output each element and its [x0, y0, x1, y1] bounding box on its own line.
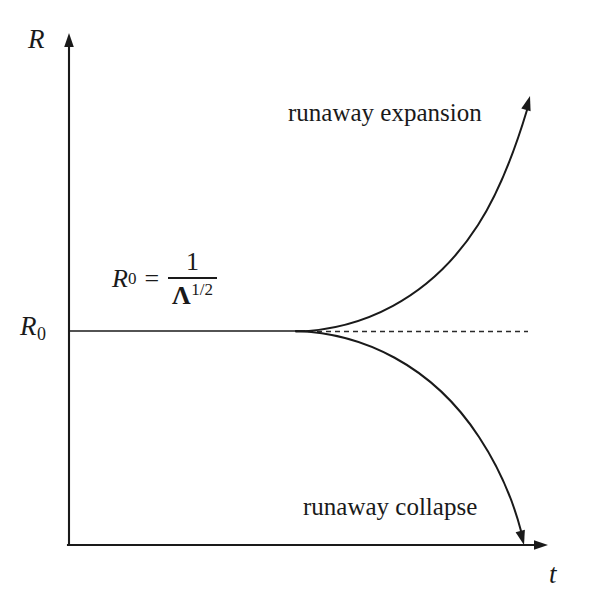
bifurcation-figure: R t R0 runaway expansion runaway collaps… — [0, 0, 597, 606]
equation-equals-sign: = — [144, 264, 159, 294]
equation-r0-definition: R0 = 1 Λ1/2 — [112, 249, 217, 309]
tick-label-base: R — [20, 311, 37, 341]
y-axis-tick-label-R0: R0 — [20, 313, 46, 343]
x-axis-label: t — [549, 561, 557, 588]
equation-lhs-variable: R — [112, 264, 128, 294]
y-axis-arrowhead — [64, 33, 74, 47]
equation-exponent: 1/2 — [191, 280, 213, 299]
y-axis-label: R — [28, 26, 45, 53]
equation-fraction: 1 Λ1/2 — [168, 249, 217, 309]
annotation-runaway-expansion: runaway expansion — [288, 100, 482, 125]
equation-denominator: Λ1/2 — [168, 279, 217, 309]
tick-label-subscript: 0 — [37, 324, 46, 344]
equation-lhs-subscript: 0 — [128, 269, 137, 289]
plot-canvas — [0, 0, 597, 606]
x-axis-arrowhead — [534, 540, 548, 550]
runaway-collapse-arrowhead — [516, 530, 525, 545]
lambda-symbol: Λ — [172, 281, 191, 310]
annotation-runaway-collapse: runaway collapse — [303, 494, 477, 519]
runaway-expansion-arrowhead — [521, 96, 530, 111]
equation-numerator: 1 — [180, 249, 205, 277]
runaway-expansion-curve — [296, 110, 527, 332]
